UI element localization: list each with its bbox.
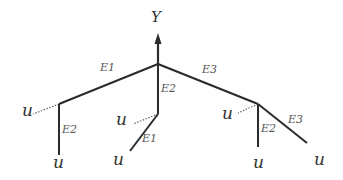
edge-label-top-right: E3 [202,64,217,75]
edge-label-right-diagonal: E3 [288,114,303,125]
leaf-middle-bottom: u [113,151,124,168]
edge-label-middle-branch: E1 [142,133,157,144]
edge-label-top-middle: E2 [161,83,176,94]
edge-label-top-left: E1 [100,62,115,73]
edge-left-dotted [33,104,59,114]
leaf-middle-dotted: u [116,111,127,128]
leaf-right-dotted: u [222,105,233,122]
arrow-up-icon [155,33,162,44]
leaf-right-bottom: u [253,154,264,171]
leaf-left-dotted: u [22,102,33,119]
root-label: Y [151,10,161,25]
tree-diagram: Y E1 E2 E3 E2 E1 E2 E3 u u u u u u u [0,0,343,180]
edge-label-right-vertical: E2 [261,123,276,134]
root-arrow [155,33,162,64]
edge-right-dotted [238,104,258,113]
edge-label-left-branch: E2 [62,124,77,135]
leaf-left-bottom: u [53,154,64,171]
leaf-right-far: u [314,151,325,168]
